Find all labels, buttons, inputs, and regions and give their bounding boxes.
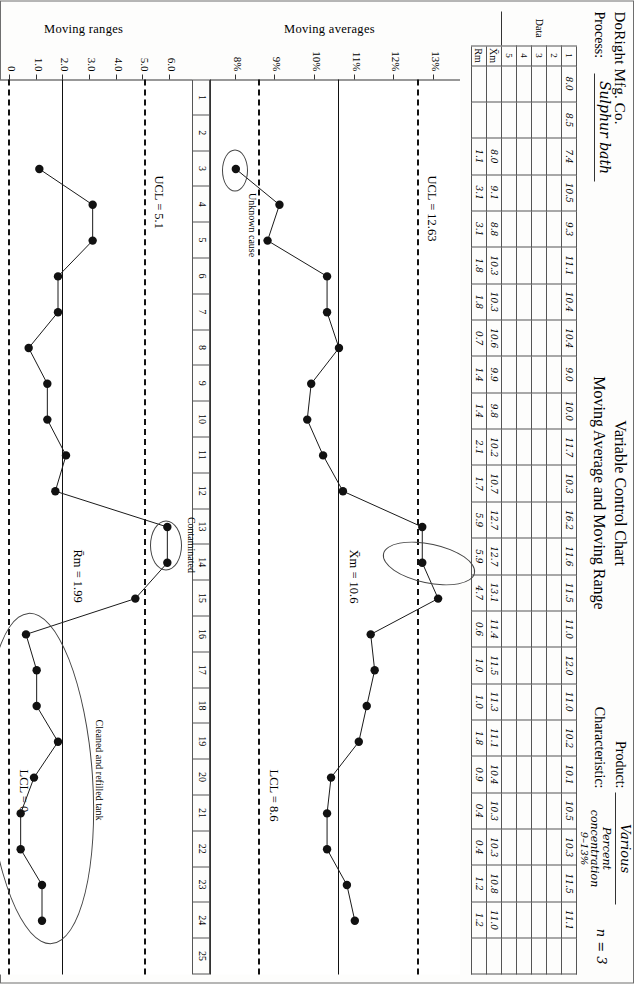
data-point[interactable] xyxy=(434,594,442,602)
data-point[interactable] xyxy=(263,236,271,244)
table-cell[interactable]: 11.0 xyxy=(562,683,577,719)
table-cell[interactable] xyxy=(532,283,547,319)
table-cell[interactable] xyxy=(517,829,532,865)
table-cell[interactable]: 1.4 xyxy=(472,356,487,392)
table-cell[interactable] xyxy=(517,283,532,319)
table-cell[interactable]: 1.1 xyxy=(472,138,487,174)
table-cell[interactable] xyxy=(502,829,517,865)
table-cell[interactable]: 8.0 xyxy=(487,138,502,174)
table-cell[interactable] xyxy=(547,210,562,246)
table-cell[interactable]: 0.6 xyxy=(472,610,487,646)
table-cell[interactable] xyxy=(547,938,562,974)
table-cell[interactable] xyxy=(532,429,547,465)
table-cell[interactable]: 7.4 xyxy=(562,138,577,174)
table-cell[interactable]: 11.6 xyxy=(562,538,577,574)
data-point[interactable] xyxy=(275,200,283,208)
table-cell[interactable] xyxy=(547,65,562,101)
table-cell[interactable]: 0.4 xyxy=(472,829,487,865)
table-cell[interactable] xyxy=(547,829,562,865)
table-cell[interactable]: 10.6 xyxy=(487,320,502,356)
table-cell[interactable]: 12.0 xyxy=(562,647,577,683)
table-cell[interactable] xyxy=(532,756,547,792)
table-cell[interactable] xyxy=(532,138,547,174)
table-cell[interactable] xyxy=(562,938,577,974)
table-cell[interactable] xyxy=(502,792,517,828)
table-cell[interactable]: 4.7 xyxy=(472,574,487,610)
table-cell[interactable]: 10.8 xyxy=(487,865,502,901)
table-cell[interactable]: 10.3 xyxy=(487,283,502,319)
table-cell[interactable] xyxy=(532,392,547,428)
table-cell[interactable]: 10.5 xyxy=(562,174,577,210)
data-point[interactable] xyxy=(88,236,96,244)
table-cell[interactable] xyxy=(502,465,517,501)
table-cell[interactable]: 10.4 xyxy=(487,756,502,792)
table-cell[interactable] xyxy=(532,320,547,356)
table-cell[interactable] xyxy=(502,101,517,137)
table-cell[interactable] xyxy=(472,65,487,101)
data-point[interactable] xyxy=(303,415,311,423)
table-cell[interactable] xyxy=(517,647,532,683)
table-cell[interactable] xyxy=(502,320,517,356)
table-cell[interactable]: 10.1 xyxy=(562,756,577,792)
data-point[interactable] xyxy=(88,200,96,208)
table-cell[interactable] xyxy=(502,938,517,974)
table-cell[interactable]: 9.3 xyxy=(562,210,577,246)
table-cell[interactable] xyxy=(517,901,532,937)
table-cell[interactable]: 9.8 xyxy=(487,392,502,428)
data-point[interactable] xyxy=(355,737,363,745)
table-cell[interactable]: 3.1 xyxy=(472,210,487,246)
table-cell[interactable] xyxy=(517,756,532,792)
table-cell[interactable]: 10.4 xyxy=(562,283,577,319)
table-cell[interactable] xyxy=(547,320,562,356)
table-cell[interactable]: 10.3 xyxy=(562,465,577,501)
table-cell[interactable]: 11.7 xyxy=(562,429,577,465)
table-cell[interactable] xyxy=(517,610,532,646)
table-cell[interactable] xyxy=(547,465,562,501)
table-cell[interactable]: 10.0 xyxy=(562,392,577,428)
table-cell[interactable]: 10.2 xyxy=(487,429,502,465)
table-cell[interactable]: 0.4 xyxy=(472,792,487,828)
data-point[interactable] xyxy=(351,916,359,924)
table-cell[interactable]: 1.8 xyxy=(472,719,487,755)
table-cell[interactable] xyxy=(487,65,502,101)
table-cell[interactable] xyxy=(502,865,517,901)
table-cell[interactable]: 0.7 xyxy=(472,320,487,356)
data-point[interactable] xyxy=(418,522,426,530)
table-cell[interactable] xyxy=(502,356,517,392)
table-cell[interactable] xyxy=(547,101,562,137)
table-cell[interactable]: 11.3 xyxy=(487,683,502,719)
table-cell[interactable]: 5.9 xyxy=(472,501,487,537)
table-cell[interactable] xyxy=(517,792,532,828)
data-point[interactable] xyxy=(319,451,327,459)
table-cell[interactable] xyxy=(502,174,517,210)
table-cell[interactable] xyxy=(547,247,562,283)
table-cell[interactable] xyxy=(517,138,532,174)
table-cell[interactable]: 1.2 xyxy=(472,901,487,937)
table-cell[interactable] xyxy=(502,538,517,574)
table-cell[interactable] xyxy=(532,792,547,828)
table-cell[interactable]: 16.2 xyxy=(562,501,577,537)
table-cell[interactable] xyxy=(547,574,562,610)
table-cell[interactable] xyxy=(532,210,547,246)
table-cell[interactable]: 10.4 xyxy=(562,320,577,356)
table-cell[interactable]: 1.8 xyxy=(472,247,487,283)
table-cell[interactable] xyxy=(502,683,517,719)
table-cell[interactable] xyxy=(532,829,547,865)
table-cell[interactable] xyxy=(502,719,517,755)
data-point[interactable] xyxy=(323,845,331,853)
table-cell[interactable] xyxy=(502,65,517,101)
table-cell[interactable] xyxy=(532,247,547,283)
data-point[interactable] xyxy=(323,809,331,817)
table-cell[interactable] xyxy=(502,756,517,792)
table-cell[interactable] xyxy=(487,101,502,137)
table-cell[interactable] xyxy=(547,283,562,319)
product-value[interactable]: Various xyxy=(615,792,633,904)
table-cell[interactable] xyxy=(517,538,532,574)
table-cell[interactable]: 10.3 xyxy=(487,247,502,283)
table-cell[interactable]: 8.0 xyxy=(562,65,577,101)
table-cell[interactable] xyxy=(517,174,532,210)
table-cell[interactable] xyxy=(502,138,517,174)
table-cell[interactable] xyxy=(517,719,532,755)
table-cell[interactable] xyxy=(547,610,562,646)
table-cell[interactable] xyxy=(532,683,547,719)
